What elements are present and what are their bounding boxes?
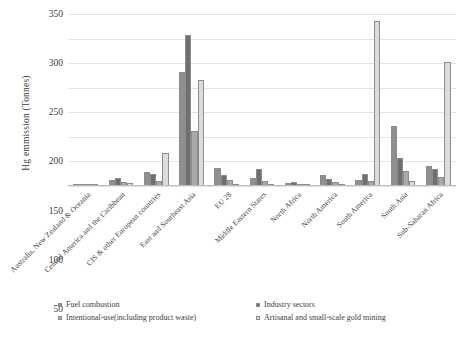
y-axis-tick-label: 200 (49, 156, 63, 166)
y-axis-tick-label: 350 (49, 9, 63, 19)
bar (374, 21, 380, 186)
legend-item[interactable]: Industry sectors (256, 300, 456, 309)
legend-item[interactable]: Artisanal and small-scale gold mining (256, 313, 456, 322)
x-axis-tick-label: EU 28 (212, 190, 233, 211)
plot-area: 050100150200250300350 (68, 14, 456, 186)
legend-label: Industry sectors (264, 300, 315, 309)
bar-group (139, 14, 174, 186)
bar-group (103, 14, 138, 186)
bar (198, 80, 204, 186)
y-axis-title: Hg emmission (Tonnes) (21, 53, 31, 193)
legend-swatch (256, 316, 260, 320)
bar-group (68, 14, 103, 186)
bar-group (421, 14, 456, 186)
bar-group (244, 14, 279, 186)
bar (162, 153, 168, 186)
bar-group (350, 14, 385, 186)
chart-figure: Hg emmission (Tonnes) 050100150200250300… (0, 0, 468, 338)
legend-item[interactable]: Intentional-use(including product waste) (58, 313, 256, 322)
x-axis-tick-label: North America (300, 190, 339, 229)
x-axis-labels: Australia, New Zealand & OceaniaCentral … (68, 186, 456, 282)
bar-group (280, 14, 315, 186)
x-axis-tick-label: South Asia (379, 190, 409, 220)
legend-item[interactable]: Fuel combustion (58, 300, 256, 309)
legend-label: Artisanal and small-scale gold mining (264, 313, 386, 322)
x-axis-tick-label: South America (335, 190, 374, 229)
chart-legend: Fuel combustionIndustry sectorsIntention… (58, 298, 458, 324)
legend-label: Fuel combustion (66, 300, 120, 309)
bar-group (385, 14, 420, 186)
x-axis-tick-label: North Africa (269, 190, 304, 225)
legend-swatch (256, 303, 260, 307)
y-axis-tick-label: 250 (49, 107, 63, 117)
legend-swatch (58, 303, 62, 307)
legend-swatch (58, 316, 62, 320)
y-axis-tick-label: 300 (49, 58, 63, 68)
legend-label: Intentional-use(including product waste) (66, 313, 196, 322)
bar-group (174, 14, 209, 186)
bar-group (209, 14, 244, 186)
bar-groups (68, 14, 456, 186)
bar-group (315, 14, 350, 186)
bar (444, 62, 450, 186)
